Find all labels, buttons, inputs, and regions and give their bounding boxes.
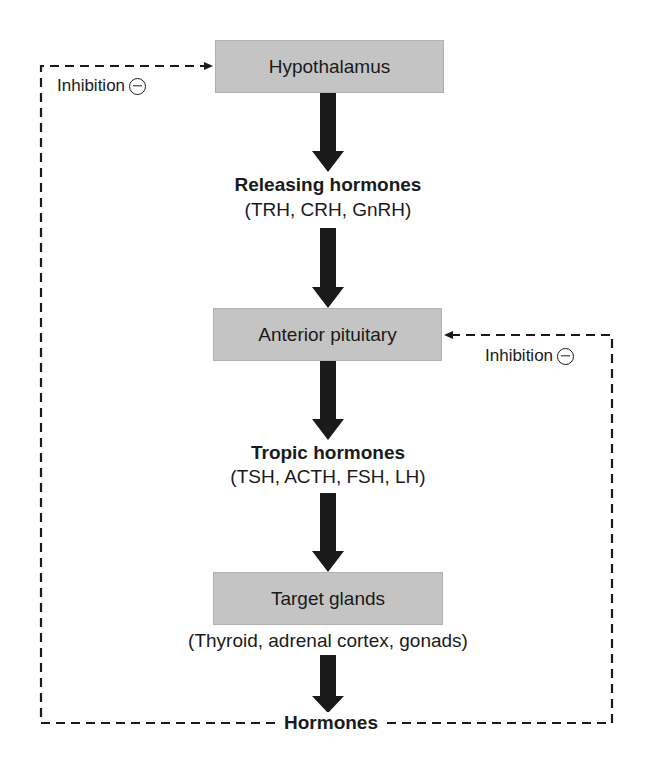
arrow-releasing-to-pituitary [312,228,344,308]
tropic-hormones-title: Tropic hormones [251,442,405,464]
tropic-hormones-examples: (TSH, ACTH, FSH, LH) [230,466,425,488]
target-glands-box: Target glands [213,572,443,625]
arrow-hypothalamus-to-releasing [312,92,344,172]
anterior-pituitary-box: Anterior pituitary [213,308,442,361]
minus-circle-icon [129,78,146,95]
arrow-pituitary-to-tropic [312,360,344,440]
inhibition-label-left: Inhibition [57,76,146,96]
inhibition-text: Inhibition [485,346,553,366]
minus-circle-icon [557,348,574,365]
arrow-target-to-hormones [312,655,344,713]
releasing-hormones-title: Releasing hormones [235,174,422,196]
hormones-output-label: Hormones [280,712,382,734]
target-glands-label: Target glands [271,588,385,610]
inhibition-text: Inhibition [57,76,125,96]
hypothalamus-box: Hypothalamus [215,40,444,93]
target-glands-examples: (Thyroid, adrenal cortex, gonads) [188,630,468,652]
releasing-hormones-examples: (TRH, CRH, GnRH) [245,199,412,221]
hypothalamus-label: Hypothalamus [269,56,390,78]
inhibition-label-right: Inhibition [485,346,574,366]
anterior-pituitary-label: Anterior pituitary [258,324,396,346]
feedback-loop-to-pituitary [372,335,612,723]
arrow-tropic-to-target [312,493,344,572]
